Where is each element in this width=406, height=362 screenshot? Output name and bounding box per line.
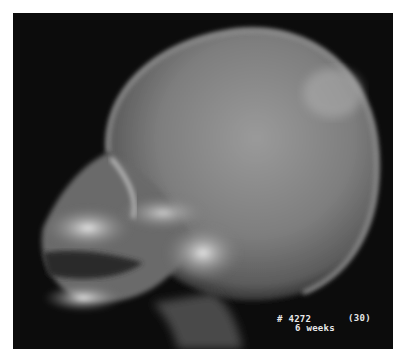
plate-number-label: (30) bbox=[348, 313, 371, 323]
skull-xray-graphic bbox=[13, 13, 393, 349]
xray-image: # 4272 (30) 6 weeks bbox=[13, 13, 393, 349]
age-label: 6 weeks bbox=[295, 323, 335, 333]
